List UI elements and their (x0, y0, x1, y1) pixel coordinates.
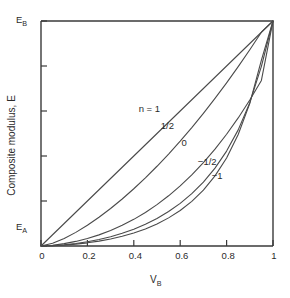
curve-label-12: 1/2 (161, 120, 174, 131)
x-tick-label: 0.2 (82, 250, 94, 261)
x-tick-label: 0.6 (175, 250, 187, 261)
curve-group (41, 21, 273, 246)
y-axis-top-label: EB (16, 14, 27, 28)
x-tick-label: 0.4 (129, 250, 141, 261)
x-axis-title: VB (150, 274, 161, 288)
x-tick-label: 0 (36, 250, 48, 261)
curve-label-1: −1 (212, 170, 223, 181)
y-tick-marks (41, 21, 47, 246)
composite-modulus-chart: Composite modulus, E EB EA 00.20.40.60.8… (0, 0, 290, 298)
curve-label-12: −1/2 (198, 156, 217, 167)
curve-label-0: 0 (182, 137, 187, 148)
x-tick-label: 0.8 (222, 250, 234, 261)
curve-label-n1: n = 1 (139, 103, 160, 114)
x-axis-title-sub: B (157, 279, 162, 288)
x-axis-title-base: V (150, 274, 157, 285)
y-axis-top-label-sub: B (22, 19, 27, 28)
y-axis-bottom-label-sub: A (22, 226, 27, 235)
x-tick-label: 1 (268, 250, 280, 261)
y-axis-bottom-label: EA (16, 221, 27, 235)
